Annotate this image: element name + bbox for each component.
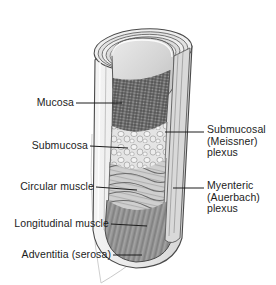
label-longitudinal-muscle: Longitudinal muscle: [0, 218, 109, 230]
label-myenteric-plexus-line1: Myenteric: [207, 180, 260, 192]
label-longitudinal-muscle-text: Longitudinal muscle: [0, 218, 109, 230]
label-adventitia-serosa: Adventitia (serosa): [0, 249, 111, 261]
label-mucosa-text: Mucosa: [0, 97, 74, 109]
label-submucosa: Submucosa: [0, 140, 88, 152]
label-submucosal-plexus-line1: Submucosal: [207, 124, 266, 136]
label-mucosa: Mucosa: [0, 97, 74, 109]
label-submucosal-plexus: Submucosal (Meissner) plexus: [207, 124, 266, 159]
anatomy-figure: Mucosa Submucosa Circular muscle Longitu…: [0, 0, 276, 285]
label-submucosal-plexus-line3: plexus: [207, 147, 266, 159]
label-circular-muscle: Circular muscle: [0, 181, 94, 193]
label-myenteric-plexus: Myenteric (Auerbach) plexus: [207, 180, 260, 215]
label-myenteric-plexus-line3: plexus: [207, 203, 260, 215]
label-circular-muscle-text: Circular muscle: [0, 181, 94, 193]
label-submucosa-text: Submucosa: [0, 140, 88, 152]
label-adventitia-serosa-text: Adventitia (serosa): [0, 249, 111, 261]
